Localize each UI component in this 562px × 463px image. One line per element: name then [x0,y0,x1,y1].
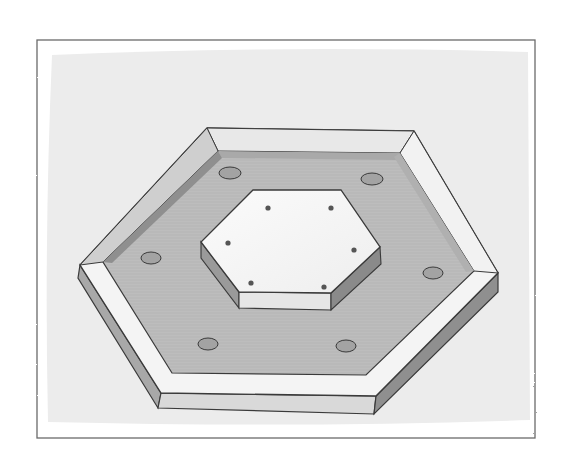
tray-hole [141,252,161,264]
plate-hole [351,247,356,252]
tray-hole [336,340,356,352]
plate-hole [265,205,270,210]
plate-hole [321,284,326,289]
hex-tray-illustration [0,0,562,463]
tray-hole [423,267,443,279]
illustration-frame [0,0,562,463]
tray-hole [361,173,383,185]
plate-hole [225,240,230,245]
tray-hole [219,167,241,179]
plate-hole [248,280,253,285]
plate-hole [328,205,333,210]
tray-hole [198,338,218,350]
plate-side-front [239,292,331,310]
rim-inner-back [207,128,414,153]
